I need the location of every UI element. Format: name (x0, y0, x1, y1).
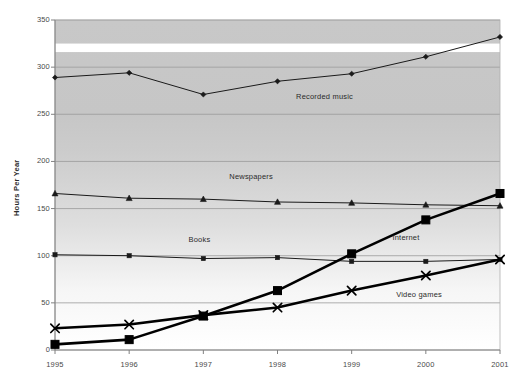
y-axis-tick-label: 200 (18, 156, 50, 165)
x-axis-tick-label: 1996 (107, 360, 151, 369)
y-axis-tick-label: 150 (18, 204, 50, 213)
y-axis-tick-label: 0 (18, 345, 50, 354)
x-axis-tick-label: 1995 (33, 360, 77, 369)
series-label-recorded-music: Recorded music (296, 92, 353, 101)
chart-container: Hours Per Year 0501001502002503003501995… (0, 0, 526, 384)
series-label-video-games: Video games (396, 290, 442, 299)
y-axis-tick-label: 350 (18, 15, 50, 24)
y-axis-tick-label: 250 (18, 109, 50, 118)
x-axis-tick-label: 2000 (404, 360, 448, 369)
y-axis-tick-label: 100 (18, 251, 50, 260)
x-axis-tick-label: 1998 (256, 360, 300, 369)
y-axis-tick-label: 300 (18, 62, 50, 71)
x-axis-tick-label: 1999 (330, 360, 374, 369)
series-label-books: Books (189, 235, 211, 244)
series-label-newspapers: Newspapers (229, 172, 273, 181)
x-axis-tick-label: 1997 (181, 360, 225, 369)
line-chart-plot (0, 0, 526, 384)
series-label-internet: Internet (392, 233, 419, 242)
y-axis-tick-label: 50 (18, 298, 50, 307)
x-axis-tick-label: 2001 (478, 360, 522, 369)
